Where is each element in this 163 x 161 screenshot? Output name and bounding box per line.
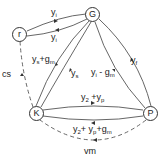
- label-rG-top: yi: [51, 7, 57, 20]
- edge-G-P-outer: [99, 19, 151, 106]
- label-rG-bottom: yi: [51, 32, 57, 45]
- label-KG-outer: ys+gm: [32, 54, 55, 67]
- edge-K-P-top: [43, 106, 143, 110]
- node-r: r: [12, 27, 27, 42]
- label-PG-inner: yi - gm: [91, 67, 115, 80]
- label-KP-top: y2 +yp: [81, 92, 104, 105]
- label-GP-outer: yf: [131, 55, 137, 68]
- label-PK-bottom: y2+ yp+gm: [73, 124, 112, 137]
- label-GK-inner: ys: [71, 68, 79, 81]
- label-vm: vm: [84, 146, 96, 156]
- node-G: G: [85, 7, 100, 22]
- node-P: P: [143, 106, 158, 121]
- arrow-cs: [20, 73, 24, 76]
- arrow-vm: [93, 138, 97, 142]
- node-K: K: [29, 106, 44, 121]
- edge-P-K-bottom: [43, 116, 143, 120]
- label-cs: cs: [2, 69, 11, 79]
